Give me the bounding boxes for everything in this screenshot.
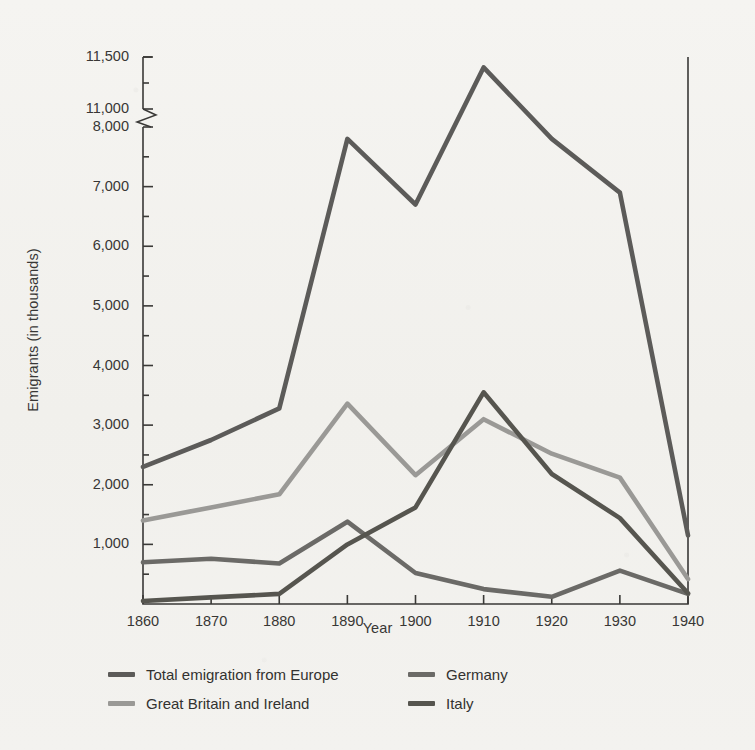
legend-color-swatch-icon (108, 672, 135, 677)
series-line-germany (143, 522, 688, 597)
axis-frame (137, 57, 688, 604)
legend-label: Italy (446, 695, 474, 712)
series-line-italy (143, 392, 688, 601)
legend-label: Total emigration from Europe (146, 666, 339, 683)
legend-item[interactable]: Great Britain and Ireland (108, 695, 408, 712)
legend-item[interactable]: Germany (408, 666, 668, 683)
series-line-great-britain-and-ireland (143, 404, 688, 579)
chart-legend: Total emigration from EuropeGermanyGreat… (108, 660, 668, 718)
series-line-total-emigration-from-europe (143, 67, 688, 535)
plot-area (0, 0, 755, 750)
legend-color-swatch-icon (108, 701, 135, 706)
legend-item[interactable]: Italy (408, 695, 668, 712)
axis-ticks (143, 57, 688, 604)
emigration-line-chart: Emigrants (in thousands) Year 1,0002,000… (0, 0, 755, 750)
legend-label: Germany (446, 666, 508, 683)
legend-color-swatch-icon (408, 701, 435, 706)
legend-color-swatch-icon (408, 672, 435, 677)
legend-item[interactable]: Total emigration from Europe (108, 666, 408, 683)
legend-label: Great Britain and Ireland (146, 695, 309, 712)
